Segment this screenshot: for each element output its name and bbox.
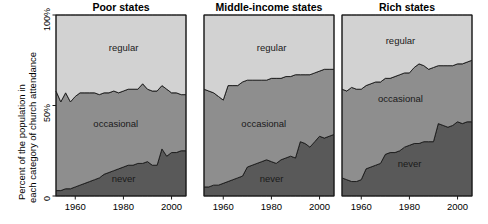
- x-axis-tick-label: 1980: [251, 201, 291, 212]
- x-axis-tick-label: 1960: [203, 201, 243, 212]
- band-label-regular: regular: [386, 35, 416, 46]
- x-axis-tick-label: 2000: [300, 201, 340, 212]
- panel-title: Rich states: [342, 1, 472, 13]
- stacked-area-plot: regularoccasionalneverregularoccasionaln…: [0, 0, 488, 224]
- x-axis-tick-label: 2000: [152, 201, 192, 212]
- panel-title: Poor states: [56, 1, 186, 13]
- band-label-occasional: occasional: [378, 93, 423, 104]
- y-axis-label-line-1: Percent of the population in: [16, 84, 27, 200]
- band-label-occasional: occasional: [93, 118, 138, 129]
- y-axis-label-line-2: each category of church attendance: [27, 52, 38, 203]
- y-axis-tick-label: 100%: [42, 8, 52, 31]
- chart-panel: regularoccasionalnever: [56, 15, 186, 200]
- church-attendance-figure: Percent of the population in each catego…: [0, 0, 488, 224]
- y-axis-tick-label: 0: [42, 196, 52, 201]
- area-band-regular: [56, 15, 186, 102]
- x-axis-tick-label: 2000: [438, 201, 478, 212]
- chart-panel: regularoccasionalnever: [204, 15, 334, 200]
- x-axis-tick-label: 1980: [389, 201, 429, 212]
- x-axis-tick-label: 1960: [341, 201, 381, 212]
- y-axis-label-group: Percent of the population in each catego…: [2, 0, 42, 210]
- panel-title: Middle-income states: [204, 1, 334, 13]
- band-label-never: never: [260, 173, 284, 184]
- band-label-regular: regular: [257, 42, 287, 53]
- x-axis-tick-label: 1980: [103, 201, 143, 212]
- band-label-regular: regular: [109, 42, 139, 53]
- chart-panel: regularoccasionalnever: [342, 15, 472, 200]
- band-label-never: never: [112, 173, 136, 184]
- band-label-never: never: [398, 158, 422, 169]
- band-label-occasional: occasional: [241, 118, 286, 129]
- x-axis-tick-label: 1960: [55, 201, 95, 212]
- y-axis-tick-label: 50%: [42, 103, 52, 121]
